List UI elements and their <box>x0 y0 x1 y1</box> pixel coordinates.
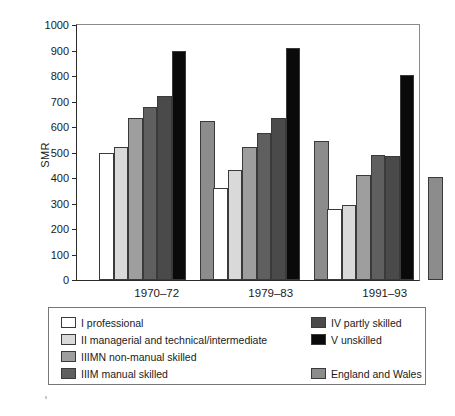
chart-figure: SMR 01002003004005006007008009001000 197… <box>0 0 455 416</box>
legend-label: IIIM manual skilled <box>81 368 168 380</box>
bar-iv-0 <box>157 96 172 280</box>
bar-i-0 <box>99 153 114 281</box>
bar-i-2 <box>327 209 342 280</box>
y-tick-mark <box>72 153 77 154</box>
y-tick-mark <box>72 178 77 179</box>
y-tick-label: 900 <box>51 45 69 57</box>
bar-iiimn-1 <box>242 147 257 280</box>
chart-legend: I professionalII managerial and technica… <box>48 307 426 385</box>
legend-swatch-icon <box>61 317 76 328</box>
legend-label: IV partly skilled <box>331 317 402 329</box>
bar-iv-1 <box>271 118 286 280</box>
y-tick-mark <box>72 280 77 281</box>
legend-swatch-icon <box>61 368 76 379</box>
y-tick-label: 600 <box>51 121 69 133</box>
legend-label: V unskilled <box>331 334 382 346</box>
y-tick-label: 700 <box>51 96 69 108</box>
legend-swatch-icon <box>311 368 326 379</box>
legend-label: I professional <box>81 317 143 329</box>
x-axis-label-0: 1970–72 <box>134 287 179 299</box>
y-tick-label: 1000 <box>45 19 69 31</box>
bar-iiimn-0 <box>128 118 143 280</box>
y-tick-label: 500 <box>51 147 69 159</box>
right-legend-item-2[interactable]: England and Wales <box>311 366 422 381</box>
plot-area: 01002003004005006007008009001000 1970–72… <box>76 24 420 281</box>
bar-v-1 <box>286 48 301 280</box>
bar-v-2 <box>400 75 415 280</box>
y-tick-label: 0 <box>63 274 69 286</box>
y-tick-label: 300 <box>51 198 69 210</box>
y-tick-label: 400 <box>51 172 69 184</box>
left-legend-item-3[interactable]: IIIM manual skilled <box>61 366 168 381</box>
left-legend-item-2[interactable]: IIIMN non-manual skilled <box>61 349 197 364</box>
legend-swatch-icon <box>61 351 76 362</box>
legend-swatch-icon <box>311 317 326 328</box>
bar-ii-2 <box>342 205 357 280</box>
right-legend-item-1[interactable]: V unskilled <box>311 332 382 347</box>
y-tick-mark <box>72 102 77 103</box>
bar-i-1 <box>213 188 228 280</box>
y-tick-mark <box>72 25 77 26</box>
y-axis-title: SMR <box>10 120 80 190</box>
x-axis-label-1: 1979–83 <box>248 287 293 299</box>
bar-iiimn-2 <box>356 175 371 280</box>
y-tick-label: 800 <box>51 70 69 82</box>
y-tick-mark <box>72 204 77 205</box>
legend-label: II managerial and technical/intermediate <box>81 334 267 346</box>
bar-iiim-2 <box>371 155 386 280</box>
right-legend-item-0[interactable]: IV partly skilled <box>311 315 402 330</box>
y-tick-mark <box>72 255 77 256</box>
bar-ii-0 <box>114 147 129 280</box>
bar-ii-1 <box>228 170 243 280</box>
y-tick-mark <box>72 127 77 128</box>
left-legend-item-0[interactable]: I professional <box>61 315 143 330</box>
bar-ew-2 <box>428 177 443 280</box>
y-tick-label: 100 <box>51 249 69 261</box>
bar-v-0 <box>172 51 187 280</box>
left-legend-item-1[interactable]: II managerial and technical/intermediate <box>61 332 267 347</box>
y-tick-mark <box>72 76 77 77</box>
y-tick-mark <box>72 51 77 52</box>
legend-label: England and Wales <box>331 368 422 380</box>
x-axis-label-2: 1991–93 <box>362 287 407 299</box>
bar-iv-2 <box>385 156 400 280</box>
legend-label: IIIMN non-manual skilled <box>81 351 197 363</box>
legend-swatch-icon <box>61 334 76 345</box>
y-tick-mark <box>72 229 77 230</box>
legend-swatch-icon <box>311 334 326 345</box>
bar-iiim-1 <box>257 133 272 280</box>
bar-iiim-0 <box>143 107 158 280</box>
scan-artifact <box>45 396 47 399</box>
y-tick-label: 200 <box>51 223 69 235</box>
